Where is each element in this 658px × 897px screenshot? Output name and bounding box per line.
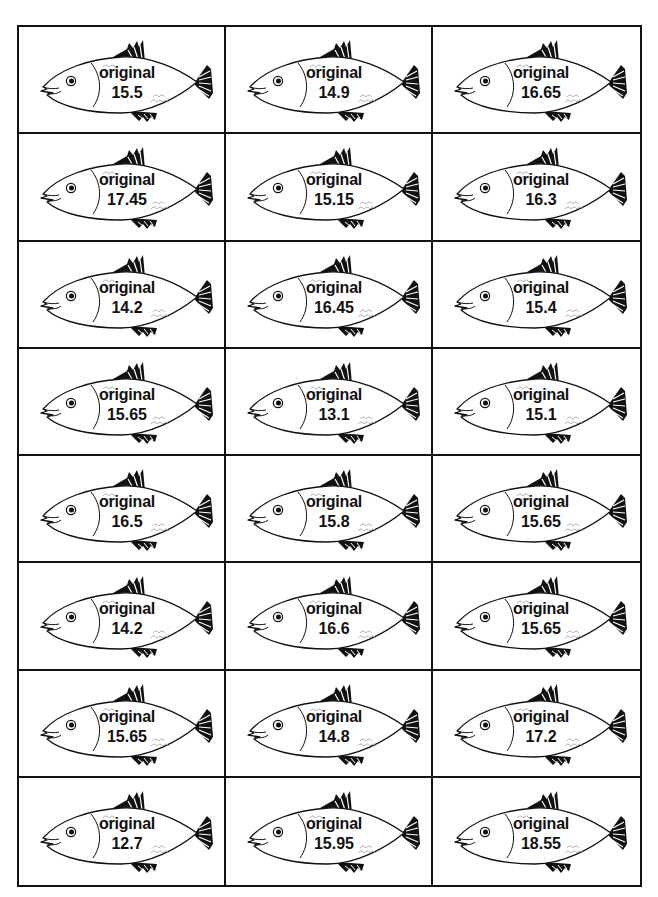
fish-card-4: original 17.45 [19, 134, 226, 241]
measurement-value: 14.2 [79, 619, 175, 639]
label-word: original [79, 278, 175, 298]
fish-card-12: original 15.1 [433, 349, 640, 456]
fish-label: original 15.65 [79, 707, 175, 747]
measurement-value: 15.15 [286, 190, 382, 210]
fish-card-11: original 13.1 [226, 349, 433, 456]
fish-label: original 13.1 [286, 385, 382, 425]
label-word: original [493, 599, 589, 619]
fish-card-10: original 15.65 [19, 349, 226, 456]
label-word: original [79, 63, 175, 83]
fish-label: original 16.45 [286, 278, 382, 318]
fish-card-7: original 14.2 [19, 242, 226, 349]
label-word: original [286, 599, 382, 619]
label-word: original [79, 385, 175, 405]
fish-card-21: original 17.2 [433, 671, 640, 778]
measurement-value: 16.5 [79, 512, 175, 532]
fish-card-3: original 16.65 [433, 27, 640, 134]
fish-label: original 15.4 [493, 278, 589, 318]
measurement-value: 15.95 [286, 834, 382, 854]
label-word: original [493, 385, 589, 405]
fish-card-9: original 15.4 [433, 242, 640, 349]
label-word: original [79, 492, 175, 512]
fish-label: original 15.65 [493, 599, 589, 639]
fish-card-13: original 16.5 [19, 456, 226, 563]
fish-card-24: original 18.55 [433, 778, 640, 885]
fish-label: original 15.65 [79, 385, 175, 425]
measurement-value: 15.65 [493, 619, 589, 639]
fish-card-17: original 16.6 [226, 563, 433, 670]
label-word: original [493, 492, 589, 512]
label-word: original [493, 814, 589, 834]
measurement-value: 16.65 [493, 83, 589, 103]
measurement-value: 16.3 [493, 190, 589, 210]
fish-card-23: original 15.95 [226, 778, 433, 885]
measurement-value: 15.8 [286, 512, 382, 532]
label-word: original [493, 63, 589, 83]
label-word: original [286, 63, 382, 83]
fish-label: original 15.65 [493, 492, 589, 532]
fish-card-18: original 15.65 [433, 563, 640, 670]
fish-card-19: original 15.65 [19, 671, 226, 778]
measurement-value: 15.1 [493, 405, 589, 425]
measurement-value: 13.1 [286, 405, 382, 425]
fish-label: original 18.55 [493, 814, 589, 854]
fish-label: original 14.9 [286, 63, 382, 103]
fish-card-16: original 14.2 [19, 563, 226, 670]
measurement-value: 18.55 [493, 834, 589, 854]
fish-label: original 16.5 [79, 492, 175, 532]
fish-card-5: original 15.15 [226, 134, 433, 241]
label-word: original [493, 707, 589, 727]
measurement-value: 16.6 [286, 619, 382, 639]
label-word: original [79, 170, 175, 190]
fish-card-2: original 14.9 [226, 27, 433, 134]
fish-label: original 16.6 [286, 599, 382, 639]
fish-label: original 15.15 [286, 170, 382, 210]
fish-label: original 15.1 [493, 385, 589, 425]
fish-card-22: original 12.7 [19, 778, 226, 885]
fish-card-14: original 15.8 [226, 456, 433, 563]
fish-card-6: original 16.3 [433, 134, 640, 241]
fish-label: original 12.7 [79, 814, 175, 854]
measurement-value: 15.4 [493, 298, 589, 318]
fish-label: original 15.5 [79, 63, 175, 103]
fish-label: original 16.65 [493, 63, 589, 103]
label-word: original [286, 707, 382, 727]
measurement-value: 14.8 [286, 727, 382, 747]
fish-label: original 17.45 [79, 170, 175, 210]
fish-card-15: original 15.65 [433, 456, 640, 563]
measurement-value: 15.65 [493, 512, 589, 532]
label-word: original [286, 492, 382, 512]
label-word: original [286, 278, 382, 298]
fish-label: original 17.2 [493, 707, 589, 747]
fish-label: original 14.2 [79, 599, 175, 639]
fish-label: original 16.3 [493, 170, 589, 210]
fish-card-8: original 16.45 [226, 242, 433, 349]
measurement-value: 15.65 [79, 727, 175, 747]
fish-card-1: original 15.5 [19, 27, 226, 134]
fish-label: original 14.8 [286, 707, 382, 747]
measurement-value: 14.9 [286, 83, 382, 103]
fish-card-20: original 14.8 [226, 671, 433, 778]
label-word: original [79, 707, 175, 727]
fish-label: original 15.95 [286, 814, 382, 854]
label-word: original [286, 170, 382, 190]
label-word: original [79, 599, 175, 619]
measurement-value: 14.2 [79, 298, 175, 318]
measurement-value: 12.7 [79, 834, 175, 854]
fish-label: original 15.8 [286, 492, 382, 532]
measurement-value: 17.2 [493, 727, 589, 747]
label-word: original [286, 814, 382, 834]
label-word: original [286, 385, 382, 405]
fish-label: original 14.2 [79, 278, 175, 318]
measurement-value: 17.45 [79, 190, 175, 210]
label-word: original [493, 170, 589, 190]
label-word: original [79, 814, 175, 834]
measurement-value: 16.45 [286, 298, 382, 318]
measurement-value: 15.5 [79, 83, 175, 103]
label-word: original [493, 278, 589, 298]
measurement-value: 15.65 [79, 405, 175, 425]
fish-card-sheet: original 15.5 [17, 25, 642, 887]
